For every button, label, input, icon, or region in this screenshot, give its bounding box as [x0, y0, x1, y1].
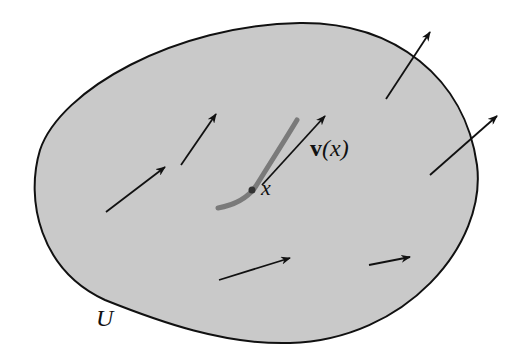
tangent-vector-label: v(x)	[310, 136, 349, 160]
figure-canvas: U x v(x)	[0, 0, 530, 357]
point-x-dot	[249, 187, 256, 194]
vector-symbol-v: v	[310, 135, 322, 161]
vector-argument: (x)	[322, 135, 349, 161]
point-label-x: x	[261, 177, 271, 199]
region-label-u: U	[96, 306, 113, 330]
